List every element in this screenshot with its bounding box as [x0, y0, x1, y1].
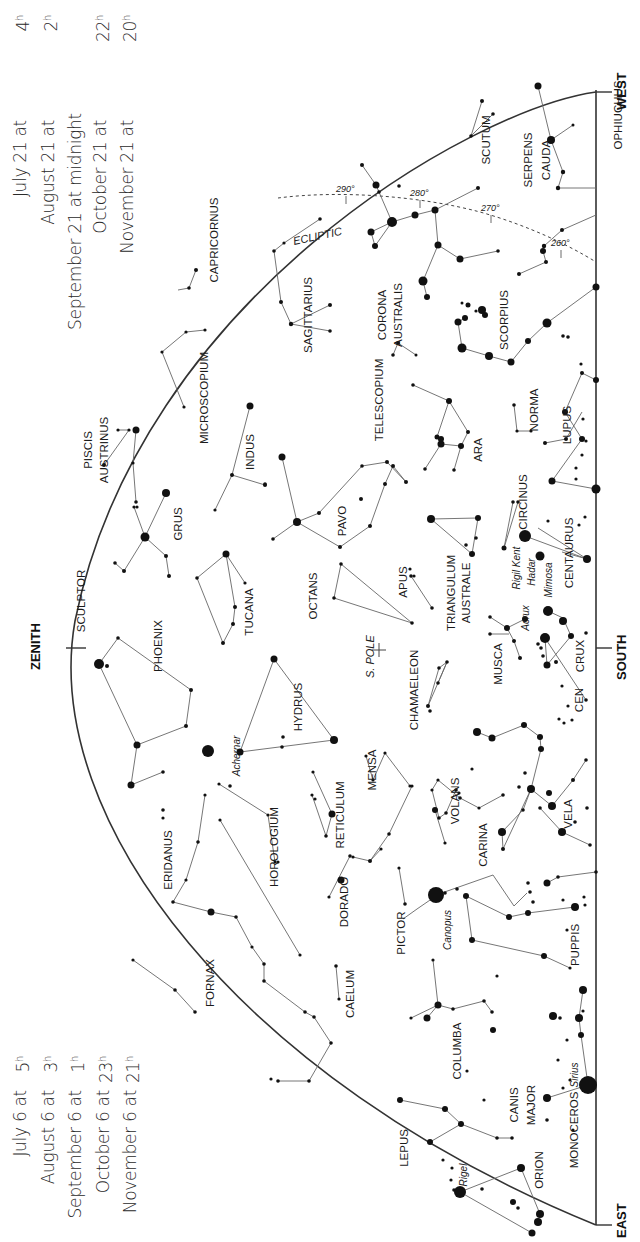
star-icon: [540, 633, 550, 643]
star-icon: [517, 272, 521, 276]
constellation-label: SAGITTARIUS: [302, 277, 314, 353]
star-icon: [329, 1041, 333, 1045]
star-icon: [409, 1016, 412, 1019]
constellation-label: SCUTUM: [480, 115, 492, 164]
star-icon: [441, 1158, 444, 1161]
star-icon: [559, 617, 567, 625]
star-icon: [167, 574, 171, 578]
star-icon: [566, 704, 569, 707]
constellation-label: COLUMBA: [451, 1022, 463, 1079]
zenith-label: ZENITH: [28, 623, 43, 670]
star-icon: [560, 684, 563, 687]
star-icon: [184, 724, 188, 728]
star-icon: [466, 303, 471, 308]
constellation-label: CAUDA: [540, 140, 552, 181]
star-icon: [128, 782, 135, 789]
star-icon: [162, 489, 170, 497]
star-icon: [218, 818, 221, 821]
star-icon: [324, 834, 328, 838]
star-icon: [368, 524, 372, 528]
star-icon: [432, 807, 438, 813]
star-icon: [457, 256, 464, 263]
star-icon: [377, 190, 381, 194]
constellation-label: CRUX: [574, 639, 586, 672]
star-icon: [556, 1058, 559, 1061]
east-label: EAST: [614, 1203, 629, 1238]
star-icon: [463, 893, 469, 899]
named-star-label: Rigil Kent: [511, 545, 522, 589]
direction-labels: WEST SOUTH EAST ZENITH: [28, 72, 629, 1238]
star-icon: [526, 881, 530, 885]
star-icon: [134, 500, 138, 504]
star-icon: [477, 806, 480, 809]
star-icon: [271, 537, 275, 541]
star-icon: [580, 453, 583, 456]
star-chart: WEST SOUTH EAST ZENITH S. POLE ECLIPTIC …: [0, 0, 640, 1242]
star-icon: [187, 286, 191, 290]
star-icon: [455, 887, 459, 891]
star-icon: [161, 816, 164, 819]
constellation-label: HYDRUS: [292, 682, 304, 731]
star-icon: [269, 1077, 272, 1080]
star-icon: [470, 767, 473, 770]
ecliptic-degree-label: 260°: [550, 238, 570, 248]
star-icon: [574, 477, 577, 480]
star-icon: [135, 505, 138, 508]
star-icon: [482, 312, 488, 318]
star-icon: [512, 403, 516, 407]
star-icon: [581, 1009, 584, 1012]
star-icon: [424, 294, 430, 300]
star-icon: [412, 212, 419, 219]
star-icon: [465, 1069, 468, 1072]
star-icon: [184, 878, 187, 881]
constellation-label: CIRCINUS: [517, 474, 529, 530]
star-icon: [403, 902, 407, 906]
constellation-label: VELA: [562, 799, 574, 829]
star-icon: [339, 562, 343, 566]
star-icon: [311, 770, 314, 773]
constellation-label: FORNAX: [204, 959, 216, 1007]
star-icon: [348, 854, 352, 858]
star-icon: [571, 778, 575, 782]
star-icon: [328, 329, 332, 333]
star-icon: [359, 497, 363, 501]
star-icon: [548, 802, 556, 810]
constellation-label: MONOCEROS: [568, 1091, 580, 1168]
star-icon: [462, 315, 468, 321]
constellation-label: ERIDANUS: [162, 830, 174, 890]
star-icon: [510, 1199, 516, 1205]
star-icon: [189, 688, 193, 692]
star-icon: [461, 302, 464, 305]
star-icon: [298, 953, 301, 956]
star-icon: [588, 843, 592, 847]
star-icon: [480, 99, 484, 103]
constellation-label: CAPRICORNUS: [208, 197, 220, 282]
star-icon: [391, 464, 395, 468]
star-icon: [409, 574, 413, 578]
constellation-label: CHAMAELEON: [408, 650, 420, 731]
star-icon: [182, 405, 185, 408]
named-star-label: Hadar: [526, 558, 537, 586]
star-icon: [289, 322, 293, 326]
star-icon: [161, 770, 165, 774]
star-icon: [572, 124, 575, 127]
star-icon: [213, 508, 216, 511]
star-icon: [560, 228, 564, 232]
star-icon: [491, 112, 495, 116]
constellation-label: PUPPIS: [569, 924, 581, 967]
star-icon: [488, 632, 492, 636]
star-icon: [469, 937, 475, 943]
star-icon: [458, 443, 464, 449]
constellation-label: AUSTRALE: [460, 562, 472, 623]
star-icon: [372, 243, 378, 249]
star-icon: [243, 581, 246, 584]
star-icon: [387, 832, 391, 836]
star-icon: [435, 1002, 442, 1009]
star-icon: [464, 543, 468, 547]
star-icon: [556, 186, 560, 190]
star-icon: [436, 778, 439, 781]
star-icon: [469, 551, 475, 557]
ecliptic-degree-label: 280°: [409, 188, 429, 198]
star-icon: [485, 352, 493, 360]
star-icon: [338, 545, 342, 549]
